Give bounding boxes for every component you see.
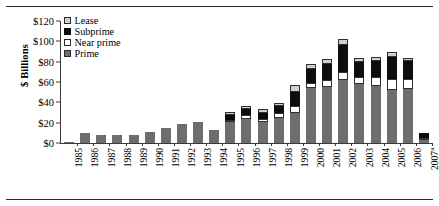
x-axis-line bbox=[60, 143, 432, 144]
bar-2007[interactable] bbox=[419, 21, 429, 143]
bar-segment-prime bbox=[371, 86, 381, 143]
bar-segment-prime bbox=[96, 135, 106, 143]
x-tick-mark bbox=[255, 143, 256, 146]
legend-swatch-subprime-icon bbox=[64, 28, 71, 35]
y-axis-ticks: $0$20$40$60$80$100$120 bbox=[14, 16, 60, 150]
x-tick-label-1995: 1995 bbox=[235, 148, 246, 167]
x-tick-label-1990: 1990 bbox=[154, 148, 165, 167]
x-tick-mark bbox=[384, 143, 385, 146]
bar-segment-lease bbox=[290, 85, 300, 92]
bar-segment-subprime bbox=[403, 61, 413, 79]
x-tick-mark bbox=[93, 143, 94, 146]
bar-segment-nearprime bbox=[371, 77, 381, 86]
bar-segment-subprime bbox=[290, 92, 300, 106]
bar-segment-prime bbox=[193, 122, 203, 143]
y-tick-label: $120 bbox=[33, 16, 54, 27]
x-tick-label-1985: 1985 bbox=[73, 148, 84, 167]
bar-1998[interactable] bbox=[274, 21, 284, 143]
x-tick-label-1999: 1999 bbox=[299, 148, 310, 167]
bar-1991[interactable] bbox=[161, 21, 171, 143]
bar-2000[interactable] bbox=[306, 21, 316, 143]
bar-segment-prime bbox=[306, 88, 316, 143]
bar-1994[interactable] bbox=[209, 21, 219, 143]
x-tick-mark bbox=[367, 143, 368, 146]
legend-item-prime: Prime bbox=[64, 49, 121, 59]
x-tick-label-2006: 2006 bbox=[412, 148, 423, 167]
x-tick-mark bbox=[158, 143, 159, 146]
x-tick-label-1986: 1986 bbox=[89, 148, 100, 167]
x-tick-mark bbox=[174, 143, 175, 146]
legend-swatch-prime-icon bbox=[64, 50, 71, 57]
bar-1992[interactable] bbox=[177, 21, 187, 143]
bar-1990[interactable] bbox=[145, 21, 155, 143]
bar-segment-prime bbox=[64, 142, 74, 143]
bar-segment-subprime bbox=[322, 64, 332, 80]
bar-1997[interactable] bbox=[258, 21, 268, 143]
bar-2005[interactable] bbox=[387, 21, 397, 143]
bar-2006[interactable] bbox=[403, 21, 413, 143]
y-tick-label: $80 bbox=[38, 56, 54, 67]
x-tick-label-2005: 2005 bbox=[396, 148, 407, 167]
bar-segment-prime bbox=[419, 140, 429, 143]
x-tick-label-1987: 1987 bbox=[106, 148, 117, 167]
y-tick-label: $40 bbox=[38, 97, 54, 108]
x-tick-label-1989: 1989 bbox=[138, 148, 149, 167]
x-tick-label-1996: 1996 bbox=[251, 148, 262, 167]
x-tick-mark bbox=[190, 143, 191, 146]
x-tick-label-2007: 2007a bbox=[428, 148, 439, 170]
bottom-rule bbox=[6, 199, 433, 200]
figure: $ Billions $0$20$40$60$80$100$120 198519… bbox=[0, 0, 439, 206]
bar-segment-prime bbox=[145, 132, 155, 143]
bar-segment-subprime bbox=[338, 45, 348, 71]
bar-segment-prime bbox=[290, 113, 300, 144]
bar-2002[interactable] bbox=[338, 21, 348, 143]
x-tick-label-1992: 1992 bbox=[186, 148, 197, 167]
x-tick-mark bbox=[400, 143, 401, 146]
bar-segment-prime bbox=[129, 135, 139, 143]
bar-segment-prime bbox=[161, 128, 171, 143]
x-tick-label-2003: 2003 bbox=[364, 148, 375, 167]
x-tick-mark bbox=[303, 143, 304, 146]
bar-segment-prime bbox=[403, 89, 413, 143]
bar-segment-nearprime bbox=[338, 72, 348, 80]
bar-segment-prime bbox=[387, 90, 397, 143]
bar-segment-prime bbox=[274, 118, 284, 143]
legend-label: Subprime bbox=[75, 27, 115, 37]
x-tick-mark bbox=[77, 143, 78, 146]
bar-1989[interactable] bbox=[129, 21, 139, 143]
bar-segment-prime bbox=[80, 133, 90, 143]
x-tick-mark bbox=[206, 143, 207, 146]
x-tick-label-1997: 1997 bbox=[267, 148, 278, 167]
legend-swatch-lease-icon bbox=[64, 17, 71, 24]
x-tick-label-2000: 2000 bbox=[315, 148, 326, 167]
bar-2004[interactable] bbox=[371, 21, 381, 143]
bar-segment-prime bbox=[225, 122, 235, 143]
bar-1993[interactable] bbox=[193, 21, 203, 143]
x-tick-label-2002: 2002 bbox=[347, 148, 358, 167]
x-tick-mark bbox=[335, 143, 336, 146]
bar-segment-prime bbox=[258, 122, 268, 143]
bar-2003[interactable] bbox=[354, 21, 364, 143]
bar-2001[interactable] bbox=[322, 21, 332, 143]
x-tick-mark bbox=[416, 143, 417, 146]
bar-1996[interactable] bbox=[241, 21, 251, 143]
bar-segment-nearprime bbox=[354, 77, 364, 84]
bar-1999[interactable] bbox=[290, 21, 300, 143]
bar-segment-nearprime bbox=[403, 79, 413, 89]
bar-segment-prime bbox=[112, 135, 122, 143]
x-tick-mark bbox=[271, 143, 272, 146]
legend: LeaseSubprimeNear primePrime bbox=[64, 16, 121, 60]
bar-segment-prime bbox=[338, 80, 348, 143]
x-tick-label-1988: 1988 bbox=[122, 148, 133, 167]
x-tick-mark bbox=[126, 143, 127, 146]
bar-1995[interactable] bbox=[225, 21, 235, 143]
x-tick-mark bbox=[432, 143, 433, 146]
x-tick-mark bbox=[222, 143, 223, 146]
y-tick-label: $20 bbox=[38, 117, 54, 128]
x-tick-mark bbox=[142, 143, 143, 146]
x-tick-mark bbox=[109, 143, 110, 146]
bar-segment-prime bbox=[241, 119, 251, 143]
y-tick-label: $100 bbox=[33, 36, 54, 47]
legend-label: Near prime bbox=[75, 38, 121, 48]
y-tick-label: $60 bbox=[38, 77, 54, 88]
